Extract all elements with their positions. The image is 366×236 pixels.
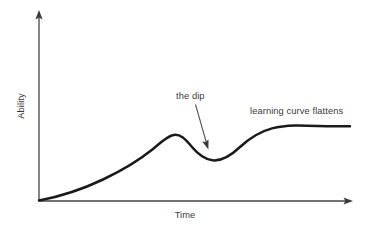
dip-arrow-line [196, 105, 207, 143]
flatten-annotation-label: learning curve flattens [250, 106, 344, 116]
dip-annotation-label: the dip [176, 91, 205, 101]
ability-curve [39, 125, 350, 200]
chart-canvas: Ability Time the dip learning curve flat… [0, 0, 366, 236]
dip-annotation-arrow [196, 105, 209, 150]
learning-curve-figure: Ability Time the dip learning curve flat… [0, 0, 366, 236]
x-axis-label: Time [175, 210, 196, 220]
dip-arrow-head [202, 140, 208, 150]
curve-group [39, 125, 350, 200]
y-axis-label: Ability [16, 93, 26, 119]
